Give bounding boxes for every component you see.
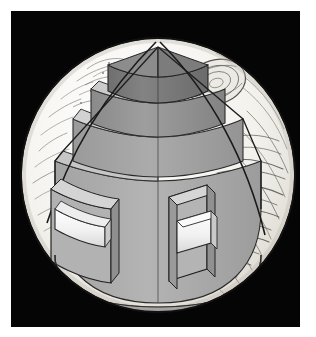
space-background-panel	[11, 11, 300, 327]
figure-root	[0, 0, 316, 337]
caption-area	[0, 327, 316, 337]
jupiter-cutaway-illustration	[11, 11, 300, 327]
